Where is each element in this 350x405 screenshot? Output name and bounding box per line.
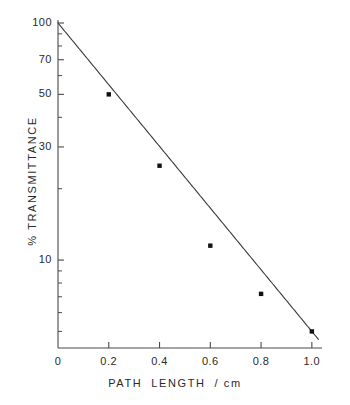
x-axis-ticks xyxy=(109,342,312,348)
x-tick-label: 0 xyxy=(38,355,78,367)
data-curve xyxy=(58,23,318,339)
x-axis-title-word3: / cm xyxy=(215,377,242,389)
data-point-marker xyxy=(157,164,161,168)
x-tick-label: 0.8 xyxy=(241,355,281,367)
y-axis-ticks xyxy=(58,23,64,331)
transmittance-chart: 100 70 50 30 10 0 0.2 0.4 0.6 0.8 1.0 % … xyxy=(0,0,350,405)
x-tick-label: 0.6 xyxy=(190,355,230,367)
x-tick-label: 1.0 xyxy=(292,355,332,367)
y-axis-title: % TRANSMITTANCE xyxy=(26,101,38,261)
plot-canvas xyxy=(0,0,350,405)
x-axis-title-word1: PATH xyxy=(108,377,142,389)
x-axis-title-word2: LENGTH xyxy=(151,377,205,389)
data-point-marker xyxy=(107,92,111,96)
data-point-marker xyxy=(310,329,314,333)
x-tick-label: 0.4 xyxy=(140,355,180,367)
y-tick-label: 70 xyxy=(10,53,52,65)
x-axis-title: PATHLENGTH/ cm xyxy=(0,377,350,389)
y-tick-label: 50 xyxy=(10,87,52,99)
data-point-marker xyxy=(259,292,263,296)
data-point-markers xyxy=(107,92,314,333)
x-tick-label: 0.2 xyxy=(89,355,129,367)
y-tick-label: 100 xyxy=(10,16,52,28)
data-point-marker xyxy=(208,243,212,247)
